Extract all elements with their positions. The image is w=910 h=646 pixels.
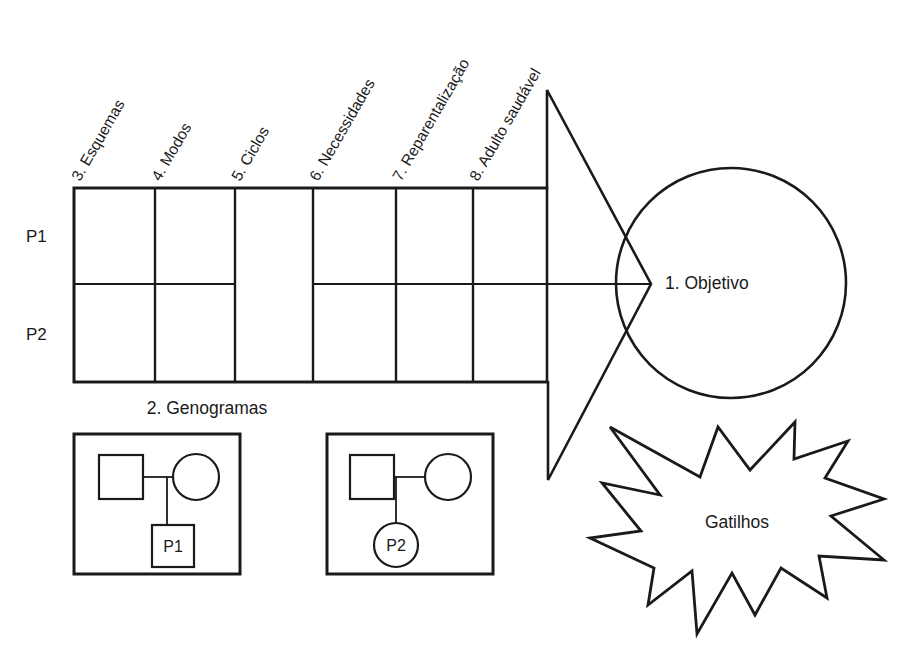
row-labels: P1 P2 (26, 227, 47, 344)
schema-therapy-diagram: 3. Esquemas 4. Modos 5. Ciclos 6. Necess… (0, 0, 910, 646)
matrix-grid (74, 188, 651, 382)
column-header-necessidades: 6. Necessidades (306, 76, 378, 184)
row-label-p1: P1 (26, 227, 47, 246)
column-header-adulto-saudavel: 8. Adulto saudável (466, 65, 544, 183)
diagram-root: 3. Esquemas 4. Modos 5. Ciclos 6. Necess… (0, 0, 910, 646)
genogram-p2-father-square (350, 455, 394, 499)
column-header-ciclos: 5. Ciclos (228, 123, 273, 183)
genograms-section: 2. Genogramas P1 (74, 398, 493, 574)
genogram-p2-mother-circle (425, 454, 471, 500)
trigger-starburst: Gatilhos (590, 422, 884, 634)
genogram-p1-mother-circle (173, 454, 219, 500)
column-header-esquemas: 3. Esquemas (68, 96, 128, 183)
objective-label: 1. Objetivo (665, 273, 749, 293)
genogram-p1: P1 (74, 434, 240, 574)
row-label-p2: P2 (26, 325, 47, 344)
genograms-section-label: 2. Genogramas (147, 398, 268, 418)
trigger-label: Gatilhos (705, 512, 769, 532)
column-headers: 3. Esquemas 4. Modos 5. Ciclos 6. Necess… (68, 56, 544, 184)
column-header-modos: 4. Modos (148, 120, 195, 184)
genogram-p2: P2 (327, 434, 493, 574)
genogram-p1-father-square (99, 455, 143, 499)
genogram-p1-child-label: P1 (163, 538, 183, 555)
genogram-p2-child-label: P2 (386, 537, 406, 554)
column-header-reparentalizacao: 7. Reparentalização (389, 56, 473, 184)
